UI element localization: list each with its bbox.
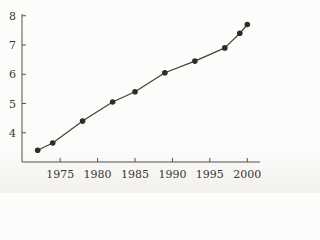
scanned-figure-page: 45678197519801985199019952000 bbox=[0, 0, 272, 193]
y-tick-label: 4 bbox=[9, 127, 16, 140]
data-point bbox=[35, 148, 41, 154]
data-point bbox=[110, 99, 116, 105]
data-point bbox=[132, 89, 138, 95]
x-tick-label: 1990 bbox=[158, 168, 186, 181]
data-line bbox=[38, 25, 248, 151]
data-point bbox=[192, 58, 198, 64]
data-point bbox=[245, 22, 251, 28]
data-point bbox=[50, 140, 56, 146]
y-tick-label: 6 bbox=[9, 68, 16, 81]
x-tick-label: 1975 bbox=[46, 168, 74, 181]
data-point bbox=[80, 118, 86, 124]
y-tick-label: 5 bbox=[9, 98, 16, 111]
x-tick-label: 1980 bbox=[84, 168, 112, 181]
data-point bbox=[222, 45, 228, 51]
data-point bbox=[237, 31, 243, 37]
data-point bbox=[162, 70, 168, 76]
x-tick-label: 1985 bbox=[121, 168, 149, 181]
x-tick-label: 2000 bbox=[233, 168, 261, 181]
y-tick-label: 8 bbox=[9, 10, 16, 23]
x-tick-label: 1995 bbox=[196, 168, 224, 181]
y-tick-label: 7 bbox=[9, 39, 16, 52]
line-chart: 45678197519801985199019952000 bbox=[0, 0, 272, 193]
